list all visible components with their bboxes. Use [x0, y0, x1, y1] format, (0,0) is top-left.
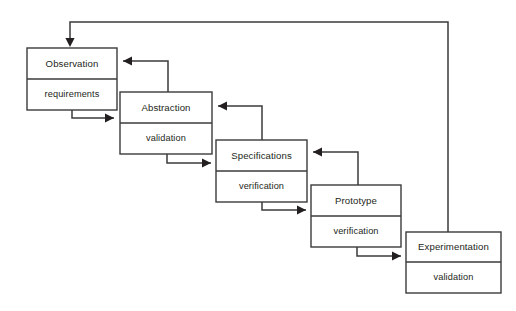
node-specifications[interactable]: Specificationsverification — [216, 140, 307, 202]
arrow-head-icon — [297, 205, 306, 214]
node-title: Abstraction — [141, 102, 190, 113]
connector-specifications-to-abstraction — [218, 101, 262, 140]
node-title: Observation — [46, 58, 99, 69]
connector-abstraction-to-specifications — [167, 154, 211, 168]
node-subtitle: requirements — [45, 89, 100, 99]
arrow-head-icon — [313, 147, 322, 156]
connector-prototype-to-experimentation — [357, 247, 401, 261]
arrow-head-icon — [392, 251, 401, 260]
process-diagram: ObservationrequirementsAbstractionvalida… — [0, 0, 516, 311]
node-observation[interactable]: Observationrequirements — [27, 48, 117, 110]
node-title: Experimentation — [418, 241, 489, 252]
arrow-head-icon — [105, 113, 114, 122]
connector-specifications-to-prototype — [262, 201, 306, 215]
node-abstraction[interactable]: Abstractionvalidation — [120, 92, 212, 154]
connector-line — [313, 152, 358, 185]
connector-observation-to-abstraction — [72, 110, 114, 123]
node-title: Prototype — [335, 195, 377, 206]
connector-line — [123, 61, 168, 92]
node-prototype[interactable]: Prototypeverification — [311, 185, 401, 247]
connector-line — [218, 106, 262, 140]
connector-prototype-to-specifications — [313, 147, 358, 185]
arrow-head-icon — [218, 101, 227, 110]
arrow-head-icon — [65, 38, 74, 47]
arrow-head-icon — [202, 158, 211, 167]
nodes-layer: ObservationrequirementsAbstractionvalida… — [27, 48, 501, 293]
arrow-head-icon — [123, 56, 132, 65]
node-subtitle: validation — [434, 272, 474, 282]
node-subtitle: verification — [333, 226, 378, 236]
connector-abstraction-to-observation — [123, 56, 168, 92]
node-subtitle: verification — [239, 181, 284, 191]
node-title: Specifications — [231, 150, 292, 161]
diagram-root: ObservationrequirementsAbstractionvalida… — [0, 0, 516, 311]
node-experimentation[interactable]: Experimentationvalidation — [406, 232, 501, 293]
node-subtitle: validation — [146, 133, 186, 143]
